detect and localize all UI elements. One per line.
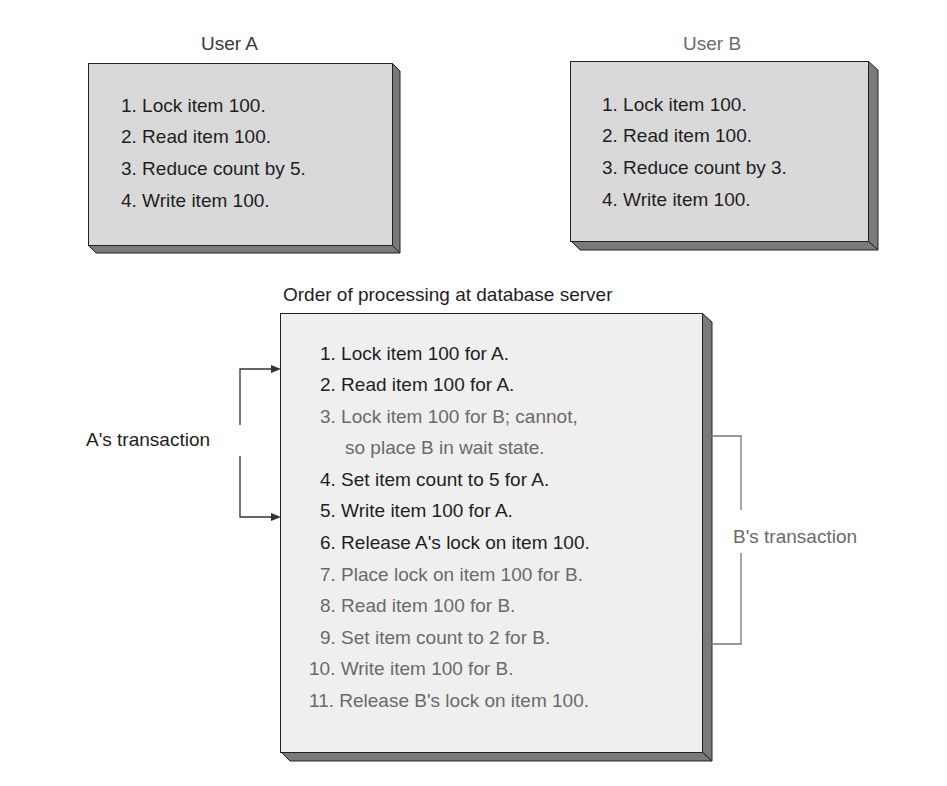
a-transaction-label: A's transaction (86, 429, 210, 451)
user-b-step-3: 3. Reduce count by 3. (602, 154, 787, 182)
server-step-7: 7. Place lock on item 100 for B. (320, 561, 583, 589)
server-step-1: 1. Lock item 100 for A. (320, 340, 509, 368)
user-a-step-3: 3. Reduce count by 5. (121, 155, 306, 183)
server-step-2: 2. Read item 100 for A. (320, 371, 514, 399)
user-a-step-4: 4. Write item 100. (121, 187, 270, 215)
user-b-step-1: 1. Lock item 100. (602, 91, 747, 119)
user-a-step-1: 1. Lock item 100. (121, 92, 266, 120)
user-b-box (570, 61, 869, 242)
server-step-3: 3. Lock item 100 for B; cannot, (320, 403, 578, 431)
server-step-10: 10. Write item 100 for B. (309, 655, 514, 683)
a-transaction-connector (240, 369, 275, 517)
server-step-11: 11. Release B's lock on item 100. (309, 687, 589, 715)
user-b-title: User B (683, 33, 741, 55)
server-step-5: 5. Write item 100 for A. (320, 497, 513, 525)
server-step-3-cont: so place B in wait state. (345, 434, 545, 462)
user-a-step-2: 2. Read item 100. (121, 123, 271, 151)
user-a-title: User A (201, 33, 258, 55)
user-b-step-2: 2. Read item 100. (602, 122, 752, 150)
server-title: Order of processing at database server (283, 284, 613, 306)
server-step-9: 9. Set item count to 2 for B. (320, 624, 550, 652)
server-step-4: 4. Set item count to 5 for A. (320, 466, 549, 494)
b-transaction-label: B's transaction (733, 526, 857, 548)
server-step-6: 6. Release A's lock on item 100. (320, 529, 590, 557)
server-step-8: 8. Read item 100 for B. (320, 592, 515, 620)
user-b-step-4: 4. Write item 100. (602, 186, 751, 214)
